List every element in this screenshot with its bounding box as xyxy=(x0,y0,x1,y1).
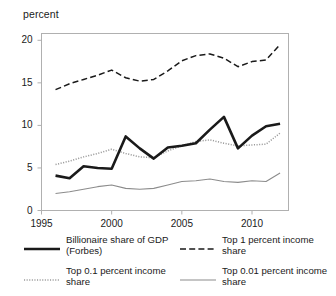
chart-legend: Billionaire share of GDP (Forbes)Top 0.1… xyxy=(0,234,336,296)
legend-swatch xyxy=(24,270,60,278)
plot-area xyxy=(0,0,336,234)
legend-label: Top 1 percent income share xyxy=(222,234,336,257)
y-axis-tick-label: 5 xyxy=(17,162,33,173)
plot-frame xyxy=(42,34,289,211)
legend-entry[interactable]: Top 0.1 percent income share xyxy=(24,265,184,293)
legend-label: Billionaire share of GDP (Forbes) xyxy=(66,234,182,257)
legend-swatch xyxy=(24,239,60,247)
y-axis-ticks xyxy=(38,40,42,210)
legend-entry[interactable]: Billionaire share of GDP (Forbes) xyxy=(24,234,184,262)
legend-swatch xyxy=(180,239,216,247)
x-axis-tick-label: 2010 xyxy=(234,218,270,229)
x-axis-ticks xyxy=(42,211,253,215)
x-axis-tick-label: 1995 xyxy=(24,218,60,229)
legend-label: Top 0.1 percent income share xyxy=(66,265,182,288)
legend-column-left: Billionaire share of GDP (Forbes)Top 0.1… xyxy=(24,234,184,296)
legend-column-right: Top 1 percent income shareTop 0.01 perce… xyxy=(180,234,336,296)
legend-entry[interactable]: Top 0.01 percent income share xyxy=(180,265,336,293)
legend-entry[interactable]: Top 1 percent income share xyxy=(180,234,336,262)
x-axis-tick-label: 2000 xyxy=(94,218,130,229)
y-axis-tick-label: 10 xyxy=(17,119,33,130)
y-axis-tick-label: 15 xyxy=(17,77,33,88)
y-axis-tick-label: 0 xyxy=(17,205,33,216)
x-axis-tick-label: 2005 xyxy=(164,218,200,229)
legend-label: Top 0.01 percent income share xyxy=(222,265,336,288)
chart-figure: percent 05101520 1995200020052010 Billio… xyxy=(0,0,336,296)
legend-swatch xyxy=(180,270,216,278)
y-axis-tick-label: 20 xyxy=(17,34,33,45)
